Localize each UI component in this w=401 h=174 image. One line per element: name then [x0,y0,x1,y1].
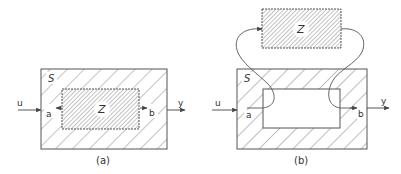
port-a-label-b: a [246,110,252,120]
block-s-label-b: S [244,73,251,84]
input-label-a: u [17,98,23,108]
input-label-b: u [215,98,221,108]
block-z-label-a: Z [97,103,106,116]
block-z-label-b: Z [296,23,305,36]
output-label-b: y [381,96,387,106]
caption-b: (b) [294,155,308,166]
caption-a: (a) [96,155,110,166]
figure-b: Z S u a b y (b) [212,9,389,166]
output-label-a: y [178,98,184,108]
port-b-label-b: b [358,109,364,119]
port-b-label-a: b [149,108,155,118]
figure-a: Z S u a b y (a) [17,69,185,166]
block-s-label-a: S [48,73,55,84]
diagram-canvas: Z S u a b y (a) Z S [0,0,401,174]
port-a-label-a: a [46,109,52,119]
